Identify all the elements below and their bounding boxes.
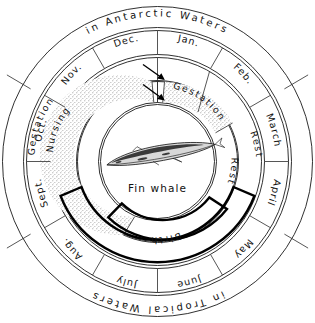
month-label-feb: Feb. (232, 61, 256, 86)
month-label-may: May (232, 237, 256, 261)
month-label-nov: Nov. (59, 61, 84, 87)
month-label-dec: Dec. (112, 32, 140, 49)
month-label-july: July (114, 274, 138, 290)
phase-label-rest-inner: Rest (225, 157, 240, 186)
zone-label-tropical: in Tropical Waters (88, 289, 226, 315)
fin-whale-illustration (105, 130, 226, 176)
month-label-jan: Jan. (176, 32, 201, 48)
transition-arrow-upper (143, 65, 165, 81)
center-caption: Fin whale (128, 182, 187, 194)
phase-label-rest-outer: Rest (248, 129, 265, 158)
phase-label-birth: Birth (150, 231, 183, 247)
cycle-wheel-svg: in Antarctic Waters in Tropical Waters J… (0, 0, 315, 323)
month-label-aug: Aug. (58, 236, 84, 263)
fin-whale-cycle-diagram: in Antarctic Waters in Tropical Waters J… (0, 0, 315, 323)
month-label-april: April (265, 179, 283, 208)
